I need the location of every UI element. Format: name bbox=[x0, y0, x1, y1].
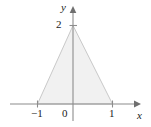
shaded-triangle-region bbox=[38, 26, 113, 105]
math-figure: y 2 −1 0 1 x bbox=[0, 0, 151, 127]
x-axis-label: x bbox=[137, 110, 142, 121]
x-tick-label-minus-1: −1 bbox=[31, 108, 43, 119]
x-tick-label-1: 1 bbox=[109, 108, 115, 119]
y-axis-arrowhead bbox=[70, 6, 77, 13]
figure-canvas bbox=[0, 0, 151, 127]
x-axis-arrowhead bbox=[134, 101, 141, 108]
origin-label: 0 bbox=[62, 108, 68, 119]
y-tick-label-2: 2 bbox=[56, 19, 62, 30]
y-axis-label: y bbox=[61, 2, 66, 13]
